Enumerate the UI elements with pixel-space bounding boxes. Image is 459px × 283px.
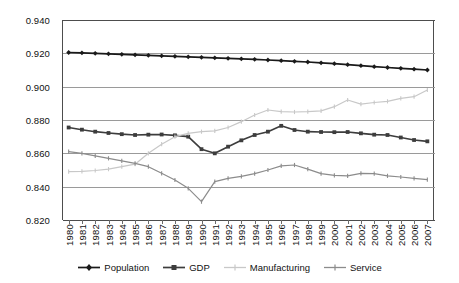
data-point: [80, 50, 85, 55]
data-point: [173, 54, 178, 59]
x-axis-tick-label: 1982: [90, 224, 101, 246]
x-axis-tick-label: 1990: [197, 224, 208, 246]
data-point: [146, 53, 151, 58]
y-axis: 0.9400.9200.9000.8800.8600.8400.820: [0, 20, 58, 220]
series-line: [69, 90, 428, 172]
data-point: [160, 133, 164, 137]
data-point: [292, 59, 297, 64]
legend-item-population[interactable]: Population: [77, 262, 149, 273]
data-point: [372, 133, 376, 137]
legend-label: Service: [350, 262, 382, 273]
y-axis-tick-label: 0.820: [26, 215, 50, 226]
legend-marker-diamond-icon: [77, 262, 101, 273]
y-axis-tick-label: 0.920: [26, 48, 50, 59]
data-point: [385, 65, 390, 70]
legend-item-manufacturing[interactable]: Manufacturing: [223, 262, 310, 273]
x-axis-tick-label: 1986: [143, 224, 154, 246]
data-point: [412, 67, 417, 72]
series-line: [69, 152, 428, 202]
series-layer: [62, 20, 434, 220]
data-point: [107, 131, 111, 135]
data-point: [399, 136, 403, 140]
x-axis-tick-label: 1980: [64, 224, 75, 246]
data-point: [252, 57, 257, 62]
x-axis-tick-label: 1989: [183, 224, 194, 246]
x-axis-tick-label: 1993: [236, 224, 247, 246]
x-axis-tick-label: 1998: [303, 224, 314, 246]
data-point: [253, 133, 257, 137]
data-point: [398, 66, 403, 71]
data-point: [386, 133, 390, 137]
x-axis-tick-label: 1995: [263, 224, 274, 246]
legend-label: Manufacturing: [250, 262, 310, 273]
series-gdp: [67, 124, 430, 155]
data-point: [106, 51, 111, 56]
x-axis-tick-label: 1988: [170, 224, 181, 246]
x-axis-tick-label: 2002: [356, 224, 367, 246]
legend-marker-square-icon: [162, 262, 186, 273]
y-axis-tick-label: 0.860: [26, 148, 50, 159]
y-axis-tick-label: 0.940: [26, 15, 50, 26]
y-axis-tick-label: 0.880: [26, 115, 50, 126]
legend-label: GDP: [189, 262, 210, 273]
data-point: [93, 130, 97, 134]
data-point: [67, 126, 71, 130]
data-point: [66, 50, 71, 55]
data-point: [186, 54, 191, 59]
data-point: [120, 132, 124, 136]
data-point: [319, 130, 323, 134]
data-point: [93, 51, 98, 56]
data-point: [346, 130, 350, 134]
data-point: [412, 138, 416, 142]
series-population: [66, 50, 430, 72]
x-axis-tick-label: 1981: [77, 224, 88, 246]
x-axis-tick-label: 1991: [210, 224, 221, 246]
legend-marker-line-icon: [223, 262, 247, 273]
x-axis-tick-label: 2003: [369, 224, 380, 246]
x-axis-tick-label: 1985: [130, 224, 141, 246]
data-point: [266, 130, 270, 134]
x-axis-tick-label: 1997: [290, 224, 301, 246]
data-point: [372, 64, 377, 69]
data-point: [239, 56, 244, 61]
data-point: [425, 68, 430, 73]
y-axis-tick-label: 0.840: [26, 181, 50, 192]
x-axis-tick-label: 1999: [316, 224, 327, 246]
data-point: [239, 138, 243, 142]
x-axis-tick-label: 2006: [409, 224, 420, 246]
x-axis-tick-label: 2007: [422, 224, 433, 246]
data-point: [133, 52, 138, 57]
x-axis-tick-label: 2000: [329, 224, 340, 246]
data-point: [359, 131, 363, 135]
data-point: [305, 60, 310, 65]
line-chart: 0.9400.9200.9000.8800.8600.8400.820 1980…: [0, 0, 459, 283]
legend-item-gdp[interactable]: GDP: [162, 262, 210, 273]
data-point: [119, 52, 124, 57]
data-point: [279, 124, 283, 128]
data-point: [332, 130, 336, 134]
y-axis-tick-label: 0.900: [26, 81, 50, 92]
data-point: [226, 145, 230, 149]
x-axis-tick-label: 2004: [383, 224, 394, 246]
x-axis-tick-label: 1992: [223, 224, 234, 246]
x-axis-tick-label: 1996: [276, 224, 287, 246]
data-point: [279, 58, 284, 63]
data-point: [146, 133, 150, 137]
series-line: [69, 126, 428, 154]
data-point: [80, 128, 84, 132]
legend-item-service[interactable]: Service: [323, 262, 382, 273]
data-point: [425, 139, 429, 143]
data-point: [319, 60, 324, 65]
data-point: [159, 53, 164, 58]
chart-legend: PopulationGDPManufacturingService: [0, 258, 459, 276]
legend-label: Population: [104, 262, 149, 273]
series-service: [69, 150, 428, 204]
x-axis-tick-label: 1987: [157, 224, 168, 246]
data-point: [293, 128, 297, 132]
data-point: [332, 61, 337, 66]
data-point: [306, 130, 310, 134]
data-point: [213, 151, 217, 155]
data-point: [212, 55, 217, 60]
x-axis-tick-label: 1994: [250, 224, 261, 246]
data-point: [266, 58, 271, 63]
